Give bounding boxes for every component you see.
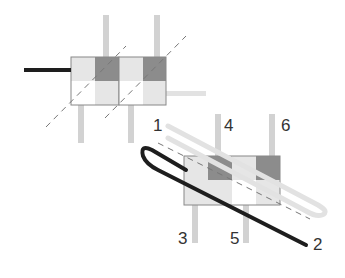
label-2: 2: [313, 235, 322, 254]
label-5: 5: [230, 229, 239, 248]
pin-5: [243, 205, 249, 243]
upper-pin-top-left: [103, 15, 109, 57]
upper-assembly: [24, 15, 206, 143]
upper-pin-bottom-left: [78, 105, 84, 143]
pin-6: [269, 114, 275, 156]
label-4: 4: [224, 116, 233, 135]
wiring-diagram: 1 4 6 3 5 2: [0, 0, 345, 278]
label-3: 3: [178, 229, 187, 248]
label-6: 6: [281, 116, 290, 135]
pin-3: [192, 205, 198, 243]
upper-pin-top-right: [154, 15, 160, 57]
upper-black-wire: [24, 68, 71, 72]
upper-pin-bottom-right: [128, 105, 134, 143]
lower-assembly: [142, 114, 325, 245]
upper-component-left: [71, 57, 119, 105]
upper-component-right: [119, 57, 166, 105]
upper-gray-wire: [166, 91, 206, 96]
label-1: 1: [153, 116, 162, 135]
